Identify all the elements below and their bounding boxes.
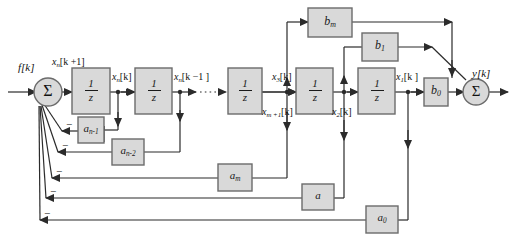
x1-bracket: [k ] [404, 71, 418, 82]
delay-block-3-label: 1 z [233, 78, 257, 103]
delay-5-denominator: z [365, 92, 389, 103]
gain-am-sub: m [235, 175, 240, 183]
signal-label-xn-next: xn[k +1] [52, 57, 85, 68]
gain-a0-label: a0 [366, 212, 398, 225]
gain-an-2-label: an-2 [112, 145, 144, 158]
minus-sign-3: − [56, 165, 62, 177]
gain-bm-label: bm [308, 15, 352, 29]
signal-label-xn: xn[k] [112, 72, 132, 83]
delay-block-5-label: 1 z [365, 78, 389, 103]
output-summer-symbol: Σ [467, 83, 485, 100]
fanin-5 [39, 106, 40, 220]
gain-a-label: a [302, 190, 334, 203]
gain-an-1-sub: n-1 [89, 128, 99, 136]
block-diagram-canvas: Σ Σ 1 z 1 z 1 z 1 z 1 z bm b1 b0 an-1 an… [0, 0, 514, 247]
delay-block-1-label: 1 z [79, 78, 103, 103]
delay-2-numerator: 1 [142, 78, 166, 89]
delay-3-denominator: z [233, 92, 257, 103]
minus-sign-1: − [66, 118, 72, 130]
gain-b0-sub: 0 [437, 89, 441, 98]
xm1-sub: m +1 [266, 111, 281, 118]
xn-prev-bracket: [k −1 ] [182, 71, 209, 82]
gain-a0-sub: 0 [383, 217, 387, 225]
minus-sign-2: − [62, 139, 68, 151]
gain-b1-label: b1 [362, 39, 398, 53]
gain-bm-sub: m [330, 20, 336, 29]
x3-bracket: [k] [280, 71, 292, 82]
gain-an-1-label: an-1 [78, 123, 104, 136]
blocks [34, 8, 489, 233]
x2-bracket: [k] [340, 106, 352, 117]
gain-a-base: a [315, 189, 321, 201]
delay-3-numerator: 1 [233, 78, 257, 89]
gain-b1-sub: 1 [381, 44, 385, 53]
delay-1-numerator: 1 [79, 78, 103, 89]
delay-5-numerator: 1 [365, 78, 389, 89]
delay-4-numerator: 1 [303, 78, 327, 89]
input-summer-symbol: Σ [38, 82, 58, 100]
gain-b0-label: b0 [424, 84, 448, 98]
xn-next-bracket: [k +1] [60, 56, 85, 67]
signal-label-output: y[k] [472, 68, 490, 79]
delay-1-denominator: z [79, 92, 103, 103]
xn-bracket: [k] [120, 71, 132, 82]
signal-label-x3: x3[k] [272, 72, 292, 83]
wire-b1-diagonal-to-summer [432, 47, 466, 80]
delay-2-denominator: z [142, 92, 166, 103]
signal-label-input: f[k] [18, 62, 35, 73]
minus-sign-4: − [50, 185, 56, 197]
signal-label-xm1: xm +1[k] [262, 107, 293, 118]
delay-block-4-label: 1 z [303, 78, 327, 103]
gain-am-label: am [218, 170, 252, 183]
delay-block-2-label: 1 z [142, 78, 166, 103]
gain-an-2-sub: n-2 [126, 150, 136, 158]
minus-sign-5: − [44, 207, 50, 219]
node-xn-next [65, 90, 69, 94]
signal-label-x2: x2[k] [332, 107, 352, 118]
signal-label-x1: x1[k ] [396, 72, 418, 83]
xm1-bracket: [k] [281, 106, 293, 117]
delay-4-denominator: z [303, 92, 327, 103]
signal-label-xn-prev: xn[k −1 ] [174, 72, 209, 83]
